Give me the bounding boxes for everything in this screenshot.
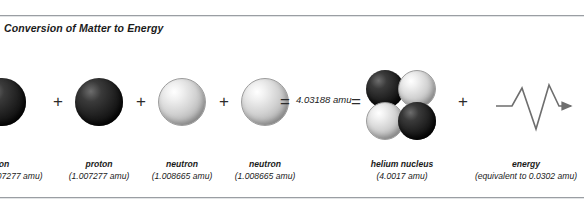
neutron-sphere-icon — [158, 78, 206, 126]
label-name: neutron — [135, 158, 229, 170]
labels-row: proton (1.007277 amu) proton (1.007277 a… — [0, 158, 584, 192]
proton-sphere-icon — [398, 102, 436, 140]
label-mass: (1.008665 amu) — [135, 170, 229, 182]
label-name: energy — [468, 158, 584, 170]
bottom-divider-rule — [0, 197, 584, 198]
label-energy: energy (equivalent to 0.0302 amu) — [468, 158, 584, 182]
label-name: helium nucleus — [352, 158, 452, 170]
top-divider-rule — [0, 15, 584, 16]
plus-operator-3: + — [216, 92, 232, 112]
label-proton-2: proton (1.007277 amu) — [52, 158, 146, 182]
label-mass: (1.007277 amu) — [0, 170, 52, 182]
label-name: proton — [0, 158, 52, 170]
label-mass: (1.007277 amu) — [52, 170, 146, 182]
label-neutron-2: neutron (1.008665 amu) — [218, 158, 312, 182]
label-name: neutron — [218, 158, 312, 170]
label-name: proton — [52, 158, 146, 170]
figure-conversion-of-matter-to-energy: Conversion of Matter to Energy + + + = 4… — [0, 0, 584, 207]
label-mass: (4.0017 amu) — [352, 170, 452, 182]
particle-proton-2 — [75, 78, 123, 126]
plus-operator-1: + — [50, 92, 66, 112]
total-reactant-mass: 4.03188 amu — [296, 94, 351, 105]
label-neutron-1: neutron (1.008665 amu) — [135, 158, 229, 182]
particle-proton-1 — [0, 78, 26, 126]
equals-operator-1: = — [277, 92, 293, 112]
label-proton-1: proton (1.007277 amu) — [0, 158, 52, 182]
proton-sphere-icon — [0, 78, 26, 126]
particle-neutron-1 — [158, 78, 206, 126]
plus-operator-4: + — [455, 92, 471, 112]
label-helium-nucleus: helium nucleus (4.0017 amu) — [352, 158, 452, 182]
label-mass: (1.008665 amu) — [218, 170, 312, 182]
figure-title: Conversion of Matter to Energy — [4, 22, 163, 34]
particle-helium-nucleus — [366, 70, 436, 140]
plus-operator-2: + — [133, 92, 149, 112]
equation-row: + + + = 4.03188 amu = + — [0, 78, 584, 138]
energy-wave-icon — [495, 80, 581, 132]
equals-operator-2: = — [348, 92, 364, 112]
proton-sphere-icon — [75, 78, 123, 126]
label-mass: (equivalent to 0.0302 amu) — [468, 170, 584, 182]
